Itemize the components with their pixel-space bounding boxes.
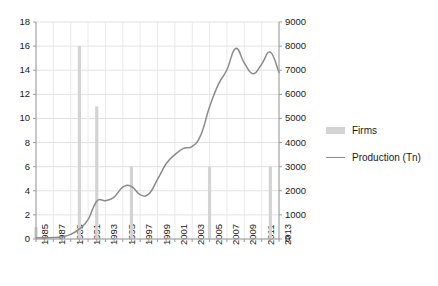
- chart-container: 024681012141618 010002000300040005000600…: [0, 0, 438, 286]
- bar: [208, 167, 211, 239]
- bar: [78, 46, 81, 239]
- plot-area: [0, 0, 438, 286]
- bar: [130, 167, 133, 239]
- legend-item-firms[interactable]: Firms: [326, 125, 377, 136]
- bar: [269, 167, 272, 239]
- gridlines-vertical: [36, 22, 279, 239]
- legend-label-firms: Firms: [352, 125, 377, 136]
- legend-swatch-production-icon: [326, 157, 345, 158]
- legend-item-production[interactable]: Production (Tn): [326, 152, 421, 163]
- legend-swatch-firms-icon: [326, 127, 345, 134]
- legend-label-production: Production (Tn): [352, 152, 421, 163]
- bar: [95, 106, 98, 239]
